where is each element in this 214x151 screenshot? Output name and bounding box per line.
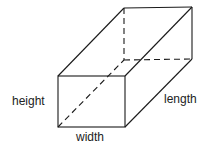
width-label: width [75, 130, 104, 144]
hidden-bottom-left-depth-edge [58, 60, 124, 127]
top-left-depth-edge [58, 8, 124, 76]
hidden-back-bottom-edge [124, 59, 192, 60]
height-label: height [12, 94, 45, 108]
back-top-edge [124, 7, 192, 8]
top-right-depth-edge [125, 7, 192, 76]
front-face [58, 76, 125, 127]
rectangular-prism-diagram: height width length [0, 0, 214, 151]
length-label: length [164, 92, 197, 106]
